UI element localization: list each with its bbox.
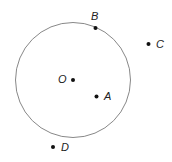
diagram-canvas xyxy=(0,0,172,162)
label-o: O xyxy=(58,74,67,85)
point-b-dot xyxy=(94,26,98,30)
geometry-diagram: O B C A D xyxy=(0,0,172,162)
label-d: D xyxy=(61,142,69,153)
point-d-dot xyxy=(51,145,55,149)
point-o-dot xyxy=(71,78,75,82)
label-c: C xyxy=(156,39,164,50)
label-b: B xyxy=(91,11,98,22)
label-a: A xyxy=(104,91,111,102)
point-a-dot xyxy=(95,95,99,99)
point-c-dot xyxy=(147,42,151,46)
